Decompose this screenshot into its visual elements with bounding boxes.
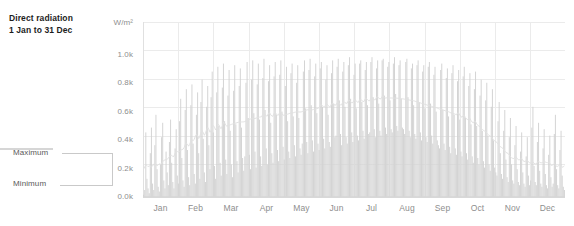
- legend-item-minimum: Minimum: [13, 179, 46, 188]
- legend-item-maximum: Maximum: [13, 148, 48, 157]
- x-axis-tick-label: Sep: [425, 203, 460, 213]
- maximum-series-spikes: [144, 57, 565, 197]
- x-axis-tick-label: Jun: [319, 203, 354, 213]
- chart-root: Direct radiation 1 Jan to 31 Dec Maximum…: [0, 0, 574, 226]
- x-axis-tick-label: Oct: [460, 203, 495, 213]
- x-axis: Jan Feb Mar Apr May Jun Jul Aug Sep Oct …: [143, 203, 565, 219]
- x-axis-tick-label: May: [284, 203, 319, 213]
- plot-area: [143, 22, 565, 198]
- y-axis-tick-label: 0.0k: [117, 192, 133, 201]
- y-axis-tick-label: 0.2k: [117, 164, 133, 173]
- x-axis-tick-label: Mar: [213, 203, 249, 213]
- x-axis-tick-label: Nov: [495, 203, 530, 213]
- x-axis-tick-label: Apr: [249, 203, 284, 213]
- x-axis-tick-label: Jan: [143, 203, 178, 213]
- y-axis-tick-label: 0.4k: [117, 135, 133, 144]
- x-axis-tick-label: Dec: [530, 203, 565, 213]
- y-axis-tick-label: 0.6k: [117, 107, 133, 116]
- x-axis-tick-label: Jul: [354, 203, 389, 213]
- y-axis-tick-label: 1.0k: [117, 50, 133, 59]
- chart-data-layer: [143, 22, 565, 198]
- x-axis-tick-label: Feb: [178, 203, 213, 213]
- x-axis-tick-label: Aug: [389, 203, 425, 213]
- y-axis-tick-label: 0.8k: [117, 78, 133, 87]
- y-axis-unit-label: W/m²: [113, 18, 133, 27]
- y-axis: W/m² 1.0k 0.8k 0.6k 0.4k 0.2k 0.0k: [95, 0, 139, 226]
